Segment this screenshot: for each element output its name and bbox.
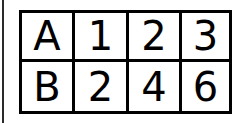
row-label-cell: A (22, 13, 75, 62)
table-cell: 6 (182, 62, 229, 111)
row-label-cell: B (22, 62, 75, 111)
table-cell: 2 (75, 62, 129, 111)
value-table: A 1 2 3 B 2 4 6 (19, 10, 232, 114)
left-border-line (2, 0, 4, 123)
table-cell: 3 (182, 13, 229, 62)
table-cell: 1 (75, 13, 129, 62)
table-cell: 2 (129, 13, 182, 62)
table-cell: 4 (129, 62, 182, 111)
